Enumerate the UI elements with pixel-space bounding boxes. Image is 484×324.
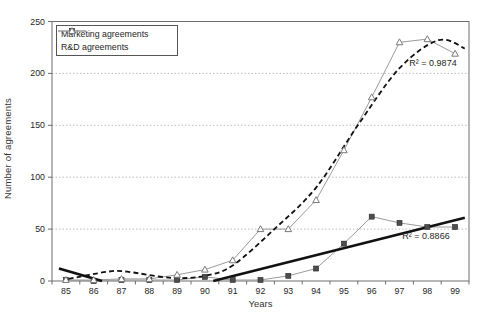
x-tick-label-95: 95 xyxy=(339,286,349,296)
trendline-rd xyxy=(69,40,465,279)
x-tick-label-88: 88 xyxy=(144,286,154,296)
y-tick-label-0: 0 xyxy=(40,276,45,286)
legend-item-rd: R&D agreements xyxy=(61,41,173,54)
x-tick-label-89: 89 xyxy=(172,286,182,296)
marker-rd-96 xyxy=(368,94,375,100)
marker-marketing-99 xyxy=(453,225,458,230)
rd-series-marker-icon xyxy=(57,26,87,36)
x-tick-label-97: 97 xyxy=(395,286,405,296)
marker-marketing-98 xyxy=(425,225,430,230)
marker-marketing-90 xyxy=(202,274,207,279)
marker-marketing-95 xyxy=(341,241,346,246)
x-tick-label-86: 86 xyxy=(89,286,99,296)
series-line-rd xyxy=(66,39,455,280)
x-tick-label-93: 93 xyxy=(283,286,293,296)
r2-annotation-rd: R² = 0.9874 xyxy=(388,58,478,68)
x-tick-label-98: 98 xyxy=(422,286,432,296)
marker-marketing-89 xyxy=(175,277,180,282)
marker-rd-94 xyxy=(313,197,320,203)
marker-marketing-96 xyxy=(369,214,374,219)
y-tick-label-150: 150 xyxy=(30,120,45,130)
x-tick-label-92: 92 xyxy=(256,286,266,296)
y-tick-label-200: 200 xyxy=(30,68,45,78)
x-tick-label-87: 87 xyxy=(117,286,127,296)
marker-marketing-94 xyxy=(314,266,319,271)
x-tick-label-91: 91 xyxy=(228,286,238,296)
x-tick-label-90: 90 xyxy=(200,286,210,296)
legend-label-rd: R&D agreements xyxy=(61,42,128,52)
y-axis-title: Number of agreements xyxy=(2,79,13,219)
marker-marketing-97 xyxy=(397,220,402,225)
legend: Marketing agreements R&D agreements xyxy=(56,25,178,56)
marker-rd-95 xyxy=(341,147,348,153)
marker-rd-99 xyxy=(452,50,459,56)
marker-marketing-92 xyxy=(258,277,263,282)
x-tick-label-85: 85 xyxy=(61,286,71,296)
y-tick-label-50: 50 xyxy=(35,224,45,234)
x-axis-title: Years xyxy=(52,298,469,309)
x-tick-label-96: 96 xyxy=(367,286,377,296)
marker-rd-98 xyxy=(424,36,431,42)
y-tick-label-100: 100 xyxy=(30,172,45,182)
agreements-chart: 8586878889909192939495969798990501001502… xyxy=(0,0,484,324)
r2-annotation-marketing: R² = 0.8866 xyxy=(381,231,471,241)
y-tick-label-250: 250 xyxy=(30,17,45,27)
x-tick-label-94: 94 xyxy=(311,286,321,296)
x-tick-label-99: 99 xyxy=(450,286,460,296)
marker-marketing-93 xyxy=(286,273,291,278)
marker-marketing-91 xyxy=(230,277,235,282)
